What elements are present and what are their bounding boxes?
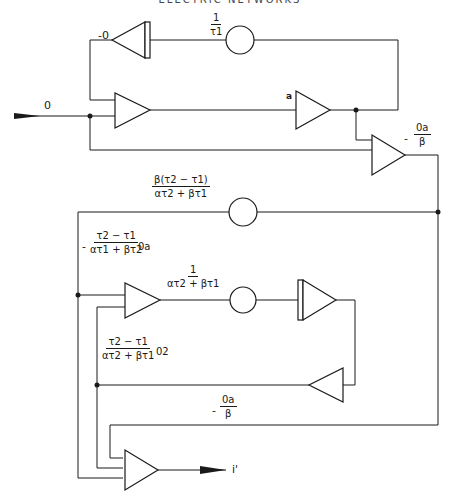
output-amplifier — [125, 450, 158, 490]
top-feedback-wire — [254, 40, 398, 110]
lower-amplifier — [125, 283, 160, 318]
block-diagram: ELECTRIC NETWORKS — [0, 0, 456, 501]
middle-signal-label: τ2 − τ1 ατ1 + βτ2 — [88, 230, 144, 255]
top-coefficient-potentiometer — [226, 26, 254, 54]
summer-output-wire — [110, 155, 438, 458]
lower-signal-suffix: 02 — [156, 347, 169, 357]
lower-feedback-sign: - — [212, 404, 216, 417]
lower-feedback-wire — [97, 307, 125, 468]
amplifier-a-label: a — [286, 92, 292, 101]
inverter-amplifier — [309, 368, 343, 402]
summer-output-sign: - — [404, 132, 408, 145]
middle-coefficient-potentiometer — [229, 198, 257, 226]
top-coefficient-label: 1 τ1 — [208, 12, 224, 37]
input-arrow-icon — [14, 113, 40, 119]
lower-coefficient-label: 1 ατ2 + βτ1 — [165, 264, 221, 289]
lower-feedback-label: 0a β — [220, 394, 237, 419]
top-integrator — [112, 22, 150, 58]
amplifier-1 — [115, 93, 150, 128]
middle-signal-suffix: 0a — [138, 242, 151, 252]
amp-a-output-wire — [330, 110, 372, 140]
middle-signal-sign: - — [82, 240, 86, 253]
input-bypass-wire — [90, 116, 372, 150]
output-label: i' — [232, 464, 238, 475]
amplifier-a — [296, 91, 330, 129]
integrator-output-label: -0 — [98, 30, 109, 41]
lower-signal-label: τ2 − τ1 ατ2 + βτ1 — [100, 336, 156, 361]
lower-integrator — [298, 280, 336, 320]
summing-amplifier — [372, 135, 405, 175]
summer-output-label: 0a β — [414, 122, 431, 147]
integrator-output-wire — [90, 40, 115, 100]
diagram-wiring — [0, 0, 456, 501]
input-label: 0 — [44, 100, 51, 111]
lower-coefficient-potentiometer — [230, 287, 256, 313]
middle-coefficient-label: β(τ2 − τ1) ατ2 + βτ1 — [152, 174, 210, 199]
